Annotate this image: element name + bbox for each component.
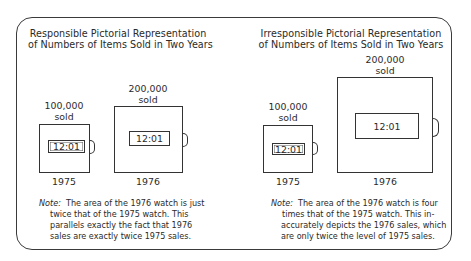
note-line: twice that of the 1975 watch. This — [39, 209, 204, 220]
sales-value: 100,000 — [258, 102, 318, 113]
watch-1975: 12:01 — [263, 125, 313, 173]
note-line: parallels exactly the fact that 1976 — [39, 220, 204, 231]
title-line: of Numbers of Items Sold in Two Years — [28, 39, 208, 50]
title-line: Irresponsible Pictorial Representation — [258, 28, 444, 39]
sales-value: 200,000 — [355, 55, 415, 66]
note-line: The area of the 1976 watch is four — [298, 198, 438, 208]
watch-time: 12:01 — [53, 141, 80, 152]
sales-unit: sold — [118, 95, 178, 106]
year-label-1975: 1975 — [34, 176, 94, 187]
watch-display: 12:01 — [355, 113, 419, 139]
note-line: times that of the 1975 watch. This in- — [271, 209, 446, 220]
watch-time: 12:01 — [275, 144, 302, 155]
year-label-1975: 1975 — [258, 176, 318, 187]
left-note: Note: The area of the 1976 watch is just… — [39, 198, 204, 242]
watch-crown-icon — [433, 118, 439, 137]
watch-1976: 12:01 — [114, 106, 183, 173]
year-label-1976: 1976 — [118, 176, 178, 187]
left-panel-title: Responsible Pictorial Representation of … — [28, 28, 208, 50]
watch-1976: 12:01 — [337, 77, 433, 173]
right-panel-title: Irresponsible Pictorial Representation o… — [258, 28, 444, 50]
note-line: accurately depicts the 1976 sales, which — [271, 220, 446, 231]
sales-label-1976: 200,000 sold — [355, 55, 415, 76]
sales-label-1975: 100,000 sold — [34, 101, 94, 122]
note-lead: Note: — [271, 198, 293, 208]
sales-value: 100,000 — [34, 101, 94, 112]
right-note: Note: The area of the 1976 watch is four… — [271, 198, 446, 242]
title-line: of Numbers of Items Sold in Two Years — [258, 39, 444, 50]
watch-display: 12:01 — [272, 143, 305, 155]
note-line: are only twice the level of 1975 sales. — [271, 231, 446, 242]
title-line: Responsible Pictorial Representation — [28, 28, 208, 39]
sales-label-1975: 100,000 sold — [258, 102, 318, 123]
note-line: sales are exactly twice 1975 sales. — [39, 231, 204, 242]
watch-time: 12:01 — [373, 121, 400, 132]
watch-time: 12:01 — [136, 133, 163, 144]
note-lead: Note: — [39, 198, 61, 208]
watch-display: 12:01 — [129, 131, 170, 146]
sales-unit: sold — [258, 113, 318, 124]
watch-1975: 12:01 — [39, 124, 90, 173]
sales-label-1976: 200,000 sold — [118, 84, 178, 105]
sales-unit: sold — [355, 66, 415, 77]
sales-unit: sold — [34, 112, 94, 123]
note-line: The area of the 1976 watch is just — [66, 198, 204, 208]
watch-display: 12:01 — [48, 140, 85, 153]
sales-value: 200,000 — [118, 84, 178, 95]
year-label-1976: 1976 — [355, 176, 415, 187]
